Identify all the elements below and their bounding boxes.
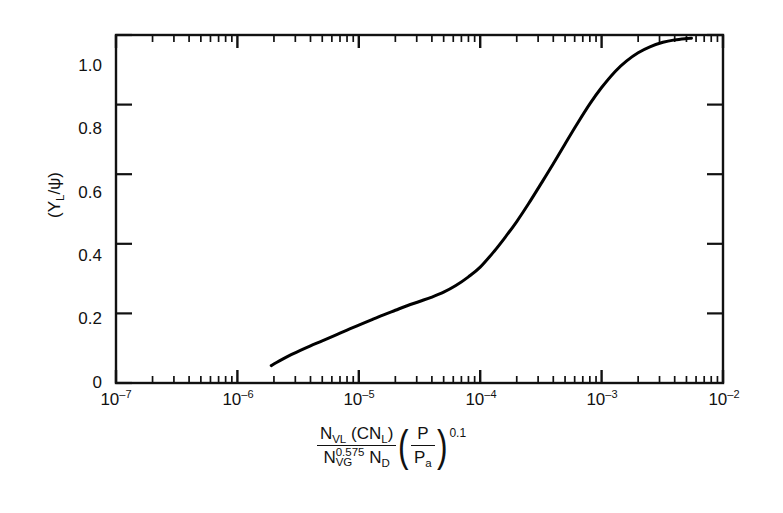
x-axis-minor-ticks xyxy=(116,35,723,383)
y-axis-ticks xyxy=(116,35,723,383)
data-curve xyxy=(271,38,691,365)
plot-area xyxy=(0,0,783,513)
figure-container: (YL/ψ) 1.0 0.8 0.6 0.4 0.2 0 10–7 10–6 1… xyxy=(0,0,783,513)
plot-frame xyxy=(116,35,723,383)
